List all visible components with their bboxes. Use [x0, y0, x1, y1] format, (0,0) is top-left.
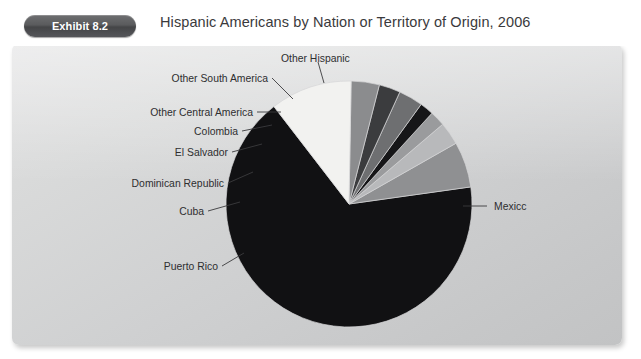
leader-other-south-america: [272, 78, 293, 99]
label-other-hispanic: Other Hispanic: [281, 53, 350, 64]
label-colombia: Colombia: [194, 126, 238, 137]
pie-slices: [226, 81, 472, 327]
label-mexico: Mexicc: [494, 201, 526, 212]
label-other-south-america: Other South America: [172, 73, 269, 84]
label-el-salvador: El Salvador: [175, 147, 229, 158]
leader-other-hispanic: [318, 62, 324, 83]
label-puerto-rico: Puerto Rico: [164, 261, 219, 272]
label-dominican-republic: Dominican Republic: [132, 178, 224, 189]
exhibit-figure: Exhibit 8.2 Hispanic Americans by Nation…: [0, 0, 641, 359]
pie-chart: Other Hispanic Other South America Other…: [0, 0, 641, 359]
label-other-central-america: Other Central America: [150, 107, 253, 118]
label-cuba: Cuba: [179, 206, 204, 217]
